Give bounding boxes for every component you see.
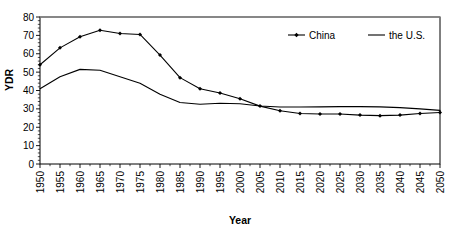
x-tick-label-1980: 1980 — [155, 171, 166, 194]
data-point-marker — [78, 35, 82, 39]
x-tick-label-2020: 2020 — [315, 171, 326, 194]
x-tick-label-2000: 2000 — [235, 171, 246, 194]
data-point-marker — [358, 113, 362, 117]
data-point-marker — [378, 114, 382, 118]
x-tick-label-2045: 2045 — [415, 171, 426, 194]
data-point-marker — [118, 32, 122, 36]
data-point-marker — [238, 97, 242, 101]
data-point-marker — [318, 112, 322, 116]
plot-area-border — [40, 17, 440, 164]
data-point-marker — [98, 28, 102, 32]
x-tick-label-2005: 2005 — [255, 171, 266, 194]
x-tick-label-2040: 2040 — [395, 171, 406, 194]
x-tick-label-2025: 2025 — [335, 171, 346, 194]
x-tick-label-1985: 1985 — [175, 171, 186, 194]
x-tick-label-2015: 2015 — [295, 171, 306, 194]
chart-container: 01020304050607080 1950195519601965197019… — [0, 0, 458, 236]
x-tick-label-1975: 1975 — [135, 171, 146, 194]
y-axis-tick-labels: 01020304050607080 — [23, 12, 35, 170]
x-tick-label-1950: 1950 — [35, 171, 46, 194]
chart-legend: Chinathe U.S. — [288, 30, 425, 41]
series-the-u-s — [40, 69, 440, 110]
y-tick-label-0: 0 — [28, 159, 34, 170]
x-tick-label-2035: 2035 — [375, 171, 386, 194]
y-tick-label-30: 30 — [23, 103, 35, 114]
y-axis-ticks — [36, 17, 40, 164]
plot-frame — [40, 17, 440, 164]
legend-item-the-u-s: the U.S. — [368, 30, 425, 41]
y-tick-label-10: 10 — [23, 140, 35, 151]
data-point-marker — [418, 111, 422, 115]
y-axis-title: YDR — [3, 68, 15, 91]
y-tick-label-70: 70 — [23, 30, 35, 41]
y-tick-label-20: 20 — [23, 122, 35, 133]
legend-label: China — [309, 30, 336, 41]
legend-marker-diamond — [294, 33, 298, 37]
x-tick-label-2050: 2050 — [435, 171, 446, 194]
data-series-group — [38, 28, 442, 117]
y-tick-label-80: 80 — [23, 12, 35, 23]
x-tick-label-1955: 1955 — [55, 171, 66, 194]
x-tick-label-1995: 1995 — [215, 171, 226, 194]
y-tick-label-50: 50 — [23, 67, 35, 78]
data-point-marker — [398, 113, 402, 117]
data-point-marker — [198, 87, 202, 91]
data-point-marker — [438, 111, 442, 115]
data-point-marker — [298, 111, 302, 115]
x-tick-label-2030: 2030 — [355, 171, 366, 194]
legend-item-china: China — [288, 30, 336, 41]
data-point-marker — [218, 91, 222, 95]
y-tick-label-60: 60 — [23, 48, 35, 59]
x-tick-label-1990: 1990 — [195, 171, 206, 194]
x-axis-tick-labels: 1950195519601965197019751980198519901995… — [35, 171, 446, 194]
x-tick-label-1965: 1965 — [95, 171, 106, 194]
x-tick-label-2010: 2010 — [275, 171, 286, 194]
x-tick-label-1960: 1960 — [75, 171, 86, 194]
data-point-marker — [278, 109, 282, 113]
y-tick-label-40: 40 — [23, 85, 35, 96]
x-tick-label-1970: 1970 — [115, 171, 126, 194]
series-line — [40, 30, 440, 115]
data-point-marker — [338, 112, 342, 116]
x-axis-title: Year — [229, 214, 251, 226]
legend-label: the U.S. — [389, 30, 425, 41]
x-axis-ticks — [40, 164, 440, 168]
line-chart: 01020304050607080 1950195519601965197019… — [0, 0, 458, 236]
series-line — [40, 69, 440, 110]
